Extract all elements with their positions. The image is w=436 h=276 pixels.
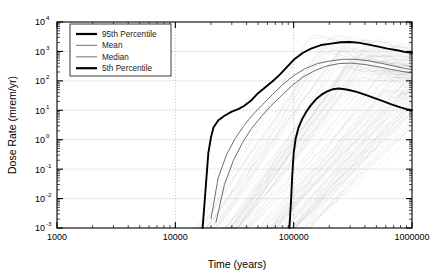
x-axis-title: Time (years): [208, 258, 267, 270]
legend-label: 95th Percentile: [102, 30, 157, 39]
svg-text:-2: -2: [46, 191, 52, 198]
svg-text:10: 10: [35, 165, 45, 175]
realization-curves: [190, 35, 412, 228]
x-tick-label: 10000: [163, 232, 188, 242]
legend-label: Median: [102, 53, 129, 62]
y-tick-label: 102: [35, 73, 50, 86]
chart-legend: 95th PercentileMeanMedian5th Percentile: [70, 24, 171, 76]
svg-text:-1: -1: [46, 162, 52, 169]
svg-text:0: 0: [46, 132, 50, 139]
svg-text:10: 10: [35, 47, 45, 57]
svg-text:10: 10: [35, 135, 45, 145]
legend-label: 5th Percentile: [102, 64, 153, 73]
svg-text:10: 10: [35, 223, 45, 233]
svg-text:-3: -3: [46, 220, 52, 227]
svg-text:2: 2: [46, 73, 50, 80]
svg-text:10: 10: [35, 76, 45, 86]
y-tick-label: 10-2: [35, 191, 52, 204]
y-tick-label: 101: [35, 103, 50, 116]
svg-text:1: 1: [46, 103, 50, 110]
dose-rate-chart: 100010000100000100000010410310210110010-…: [0, 0, 436, 276]
y-axis-title: Dose Rate (mrem/yr): [6, 76, 18, 174]
y-tick-label: 100: [35, 132, 50, 145]
svg-text:10: 10: [35, 17, 45, 27]
svg-text:4: 4: [46, 14, 50, 21]
x-tick-label: 1000: [47, 232, 67, 242]
chart-svg: 100010000100000100000010410310210110010-…: [0, 0, 436, 276]
y-tick-label: 10-1: [35, 162, 52, 175]
svg-text:10: 10: [35, 194, 45, 204]
svg-text:3: 3: [46, 44, 50, 51]
x-tick-label: 100000: [279, 232, 309, 242]
x-tick-label: 1000000: [394, 232, 429, 242]
y-tick-label: 104: [35, 14, 50, 27]
svg-text:10: 10: [35, 106, 45, 116]
y-tick-label: 103: [35, 44, 50, 57]
legend-label: Mean: [102, 41, 123, 50]
